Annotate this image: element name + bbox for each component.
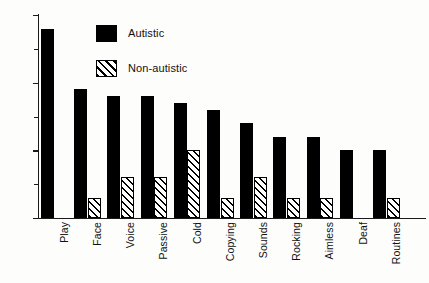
bar-group (373, 150, 400, 218)
x-axis-label-face: Face (91, 222, 103, 246)
bar-rocking-non-autistic (287, 198, 300, 218)
x-axis-label-voice: Voice (124, 222, 136, 248)
bar-voice-non-autistic (121, 177, 134, 218)
legend-label-autistic: Autistic (128, 27, 164, 39)
bar-passive-non-autistic (154, 177, 167, 218)
bar-face-autistic (74, 89, 87, 218)
x-axis-line (38, 218, 426, 219)
x-label-text: Voice (124, 222, 136, 248)
bar-chart: 0102030 PlayFaceVoicePassiveColdCopyingS… (0, 0, 429, 283)
bar-copying-non-autistic (221, 198, 234, 218)
legend-swatch-non-autistic (96, 60, 117, 77)
bar-face-non-autistic (88, 198, 101, 218)
legend-label-non-autistic: Non-autistic (128, 62, 187, 74)
x-axis-label-routines: Routines (390, 222, 402, 264)
bar-group (273, 137, 300, 218)
bar-sounds-autistic (240, 123, 253, 218)
bar-aimless-non-autistic (320, 198, 333, 218)
x-label-text: Copying (224, 222, 236, 261)
x-label-text: Play (58, 222, 70, 243)
x-axis-label-deaf: Deaf (357, 222, 369, 245)
x-label-text: Routines (390, 222, 402, 264)
bar-group (174, 103, 201, 218)
x-axis-label-play: Play (58, 222, 70, 243)
bar-passive-autistic (141, 96, 154, 218)
bar-group (41, 29, 54, 218)
bar-voice-autistic (107, 96, 120, 218)
bar-group (240, 123, 267, 218)
bar-group (207, 110, 234, 218)
bar-aimless-autistic (307, 137, 320, 218)
bar-group (307, 137, 334, 218)
bar-group (340, 150, 353, 218)
x-axis-label-rocking: Rocking (290, 222, 302, 261)
bar-play-autistic (41, 29, 54, 218)
legend-entry-non-autistic: Non-autistic (96, 59, 187, 77)
x-label-text: Face (91, 222, 103, 246)
x-label-text: Rocking (290, 222, 302, 261)
bar-rocking-autistic (273, 137, 286, 218)
x-label-text: Deaf (357, 222, 369, 245)
bar-cold-autistic (174, 103, 187, 218)
bar-group (107, 96, 134, 218)
x-axis-label-sounds: Sounds (257, 222, 269, 258)
bar-deaf-autistic (340, 150, 353, 218)
x-axis-label-aimless: Aimless (323, 222, 335, 259)
x-label-text: Cold (191, 222, 203, 244)
bar-group (74, 89, 101, 218)
bar-copying-autistic (207, 110, 220, 218)
x-axis-label-passive: Passive (157, 222, 169, 259)
legend-swatch-autistic (96, 25, 117, 42)
legend-entry-autistic: Autistic (96, 24, 187, 42)
bar-sounds-non-autistic (254, 177, 267, 218)
x-axis-label-cold: Cold (191, 222, 203, 244)
x-label-text: Aimless (323, 222, 335, 259)
chart-legend: Autistic Non-autistic (96, 24, 187, 94)
y-tick-0 (33, 218, 38, 219)
bar-group (141, 96, 168, 218)
bar-cold-non-autistic (187, 150, 200, 218)
bar-routines-autistic (373, 150, 386, 218)
x-label-text: Passive (157, 222, 169, 259)
x-label-text: Sounds (257, 222, 269, 258)
bar-routines-non-autistic (387, 198, 400, 218)
x-axis-label-copying: Copying (224, 222, 236, 261)
